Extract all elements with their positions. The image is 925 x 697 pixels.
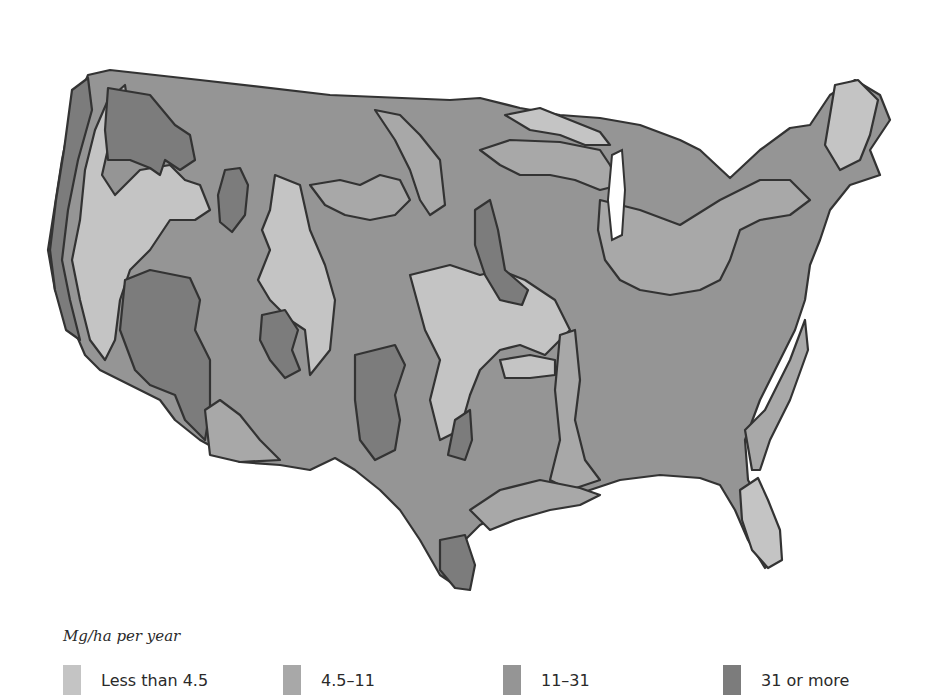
legend-label: 31 or more	[761, 671, 849, 690]
region-arkansas-low	[500, 355, 555, 378]
legend-item-low: Less than 4.5	[63, 665, 208, 695]
legend-label: 4.5–11	[321, 671, 375, 690]
legend-label: Less than 4.5	[101, 671, 208, 690]
legend-item-high: 31 or more	[723, 665, 849, 695]
legend-label: 11–31	[541, 671, 590, 690]
lake-michigan	[608, 150, 625, 240]
us-choropleth-map	[0, 0, 925, 620]
legend-swatch-low	[63, 665, 81, 695]
legend-swatch-mid-low	[283, 665, 301, 695]
legend-swatch-high	[723, 665, 741, 695]
region-florida-low	[740, 478, 782, 568]
legend-title: Mg/ha per year	[63, 627, 180, 645]
legend-swatch-mid-high	[503, 665, 521, 695]
legend-item-mid-high: 11–31	[503, 665, 590, 695]
legend-item-mid-low: 4.5–11	[283, 665, 375, 695]
region-sierra-high	[120, 270, 210, 440]
region-south-texas-high	[440, 535, 475, 590]
